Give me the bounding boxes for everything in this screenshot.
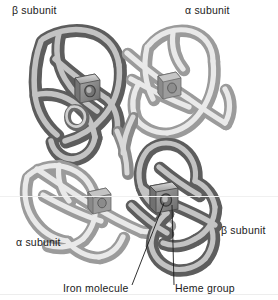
label-beta-subunit-top-left: β subunit [12,4,57,16]
hemoglobin-diagram [0,0,278,300]
label-alpha-subunit-bottom-left: α subunit [16,236,61,248]
heme-group-beta-bottom-right [150,182,178,213]
heme-group-alpha-bottom-left [88,188,111,214]
label-beta-subunit-bottom-right: β subunit [221,224,266,236]
heme-group-alpha-top-right [158,72,181,99]
label-alpha-subunit-top-right: α subunit [185,4,230,16]
figure-canvas: β subunit α subunit α subunit β subunit … [0,0,278,300]
heme-group-beta-top-left [75,74,100,103]
label-iron-molecule: Iron molecule [63,282,129,294]
label-heme-group: Heme group [175,282,235,294]
